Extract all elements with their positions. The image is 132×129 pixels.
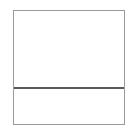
top-panel bbox=[14, 11, 124, 87]
bottom-panel bbox=[14, 89, 124, 124]
diagram-frame bbox=[13, 10, 125, 125]
